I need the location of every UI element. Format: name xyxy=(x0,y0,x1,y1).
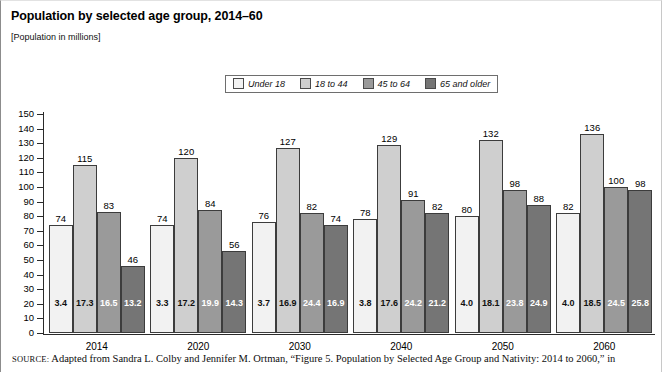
y-axis-tick xyxy=(37,158,43,159)
bar-inner-label: 24.9 xyxy=(527,298,551,308)
bar-inner-label: 13.2 xyxy=(121,298,145,308)
legend-swatch-icon xyxy=(233,78,244,89)
bar-inner-label: 3.3 xyxy=(150,298,174,308)
y-axis-tick xyxy=(37,187,43,188)
x-axis-label-2020: 2020 xyxy=(140,341,256,352)
bar-inner-label: 3.4 xyxy=(49,298,73,308)
bar-value-label: 74 xyxy=(150,213,174,224)
bar-value-label: 56 xyxy=(222,239,246,250)
bar-inner-label: 4.0 xyxy=(556,298,580,308)
bar-value-label: 91 xyxy=(401,188,425,199)
bar-value-label: 132 xyxy=(479,128,503,139)
plot-area: 743.411517.38316.54613.2743.312017.28419… xyxy=(44,114,653,333)
y-axis-tick-label: 100 xyxy=(4,182,34,192)
bar-2020-0 xyxy=(150,225,174,333)
bar-2020-2 xyxy=(198,210,222,333)
bar-inner-label: 18.1 xyxy=(479,298,503,308)
source-text: Adapted from Sandra L. Colby and Jennife… xyxy=(49,353,615,364)
bar-inner-label: 14.3 xyxy=(222,298,246,308)
y-axis-tick-label: 150 xyxy=(4,109,34,119)
bar-inner-label: 16.9 xyxy=(276,298,300,308)
bar-2050-0 xyxy=(455,216,479,333)
bar-inner-label: 18.5 xyxy=(580,298,604,308)
y-axis-tick-label: 110 xyxy=(4,167,34,177)
bar-value-label: 82 xyxy=(300,201,324,212)
source-label: SOURCE: xyxy=(12,354,49,364)
bar-2030-2 xyxy=(300,213,324,333)
y-axis-tick-label: 40 xyxy=(4,270,34,280)
y-axis-tick-label: 120 xyxy=(4,153,34,163)
source-note: SOURCE: Adapted from Sandra L. Colby and… xyxy=(12,353,615,364)
y-axis-tick xyxy=(37,129,43,130)
y-axis-tick-label: 130 xyxy=(4,138,34,148)
bar-2030-0 xyxy=(252,222,276,333)
bar-value-label: 84 xyxy=(198,198,222,209)
bar-2040-2 xyxy=(401,200,425,333)
bar-value-label: 74 xyxy=(324,213,348,224)
bar-value-label: 120 xyxy=(174,146,198,157)
bar-2014-0 xyxy=(49,225,73,333)
bar-value-label: 46 xyxy=(121,254,145,265)
legend-swatch-icon xyxy=(425,78,436,89)
bar-inner-label: 24.2 xyxy=(401,298,425,308)
bar-value-label: 127 xyxy=(276,136,300,147)
bar-2014-2 xyxy=(97,212,121,333)
bar-value-label: 88 xyxy=(527,193,551,204)
y-axis-tick-label: 90 xyxy=(4,197,34,207)
x-axis-label-2030: 2030 xyxy=(242,341,358,352)
bar-inner-label: 16.9 xyxy=(324,298,348,308)
bar-value-label: 115 xyxy=(73,153,97,164)
bar-inner-label: 3.8 xyxy=(353,298,377,308)
y-axis-tick-label: 30 xyxy=(4,284,34,294)
legend-item-0: Under 18 xyxy=(233,78,285,89)
bar-inner-label: 24.5 xyxy=(604,298,628,308)
bar-inner-label: 23.8 xyxy=(503,298,527,308)
y-axis-tick-label: 10 xyxy=(4,313,34,323)
y-axis-tick-label: 140 xyxy=(4,124,34,134)
bar-inner-label: 25.8 xyxy=(628,298,652,308)
bar-value-label: 76 xyxy=(252,210,276,221)
legend-item-1: 18 to 44 xyxy=(300,78,348,89)
bar-inner-label: 24.4 xyxy=(300,298,324,308)
bar-value-label: 100 xyxy=(604,175,628,186)
bar-2030-3 xyxy=(324,225,348,333)
bar-inner-label: 19.9 xyxy=(198,298,222,308)
bar-2050-2 xyxy=(503,190,527,333)
chart-legend: Under 1818 to 4445 to 6465 and older xyxy=(225,75,498,93)
bar-2040-0 xyxy=(353,219,377,333)
legend-swatch-icon xyxy=(300,78,311,89)
y-axis-tick-label: 20 xyxy=(4,299,34,309)
y-axis-tick xyxy=(37,289,43,290)
y-axis-tick xyxy=(37,304,43,305)
bar-value-label: 98 xyxy=(628,178,652,189)
bar-value-label: 98 xyxy=(503,178,527,189)
bar-2040-3 xyxy=(425,213,449,333)
y-axis-tick xyxy=(37,318,43,319)
x-axis-line xyxy=(43,334,655,335)
bar-2060-2 xyxy=(604,187,628,333)
y-axis-tick xyxy=(37,333,43,334)
y-axis-tick xyxy=(37,275,43,276)
bar-value-label: 82 xyxy=(425,201,449,212)
y-axis-tick-label: 50 xyxy=(4,255,34,265)
bar-2060-3 xyxy=(628,190,652,333)
y-axis-tick-label: 70 xyxy=(4,226,34,236)
x-axis-label-2040: 2040 xyxy=(343,341,459,352)
y-axis-tick xyxy=(37,202,43,203)
bar-inner-label: 17.6 xyxy=(377,298,401,308)
bar-value-label: 78 xyxy=(353,207,377,218)
bar-value-label: 82 xyxy=(556,201,580,212)
figure-panel: Population by selected age group, 2014–6… xyxy=(0,0,662,372)
bar-inner-label: 21.2 xyxy=(425,298,449,308)
bar-2060-0 xyxy=(556,213,580,333)
bar-inner-label: 17.2 xyxy=(174,298,198,308)
y-axis-tick xyxy=(37,172,43,173)
legend-label: 18 to 44 xyxy=(315,79,348,89)
bar-value-label: 74 xyxy=(49,213,73,224)
page-title: Population by selected age group, 2014–6… xyxy=(11,9,263,23)
bar-2020-3 xyxy=(222,251,246,333)
y-axis-tick xyxy=(37,216,43,217)
legend-item-3: 65 and older xyxy=(425,78,490,89)
bar-2050-3 xyxy=(527,205,551,333)
bar-value-label: 80 xyxy=(455,204,479,215)
